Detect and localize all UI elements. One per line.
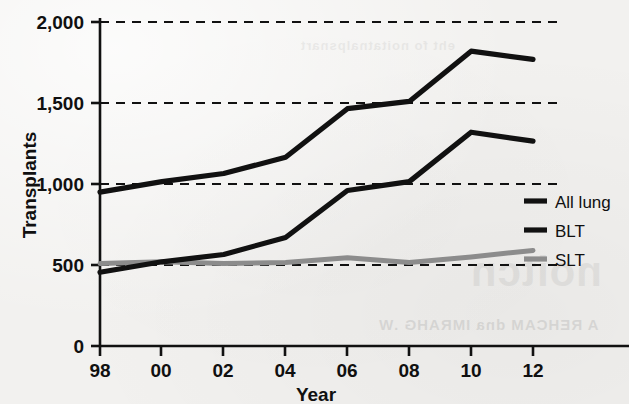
series-line-blt	[100, 132, 533, 272]
x-tick-label-06: 06	[336, 360, 357, 381]
y-tick-label-1500: 1,500	[36, 93, 84, 114]
y-tick-label-0: 0	[73, 336, 84, 357]
gridlines	[100, 22, 560, 265]
y-axis-ticks	[91, 22, 100, 346]
x-axis-ticks	[100, 346, 533, 356]
y-tick-label-500: 500	[52, 255, 84, 276]
legend-label-slt: SLT	[555, 251, 585, 270]
legend-label-all-lung: All lung	[555, 193, 611, 212]
series-line-all-lung	[100, 51, 533, 192]
chart-figure: noitcn A REHCAM dna IMRAHG .W eht fo noi…	[0, 0, 629, 404]
y-tick-label-1000: 1,000	[36, 174, 84, 195]
legend-label-blt: BLT	[555, 222, 585, 241]
x-tick-label-04: 04	[274, 360, 296, 381]
x-tick-label-08: 08	[398, 360, 419, 381]
x-tick-label-02: 02	[212, 360, 233, 381]
x-axis-title: Year	[296, 384, 337, 404]
x-tick-label-12: 12	[522, 360, 543, 381]
x-tick-label-00: 00	[150, 360, 171, 381]
y-axis-title: Transplants	[19, 132, 40, 239]
chart-legend: All lung BLT SLT	[524, 193, 611, 270]
x-tick-label-10: 10	[460, 360, 481, 381]
x-tick-label-98: 98	[89, 360, 110, 381]
line-chart-plot: 2,000 1,500 1,000 500 0 98 00 02 04 06 0…	[0, 0, 629, 404]
y-tick-label-2000: 2,000	[36, 12, 84, 33]
